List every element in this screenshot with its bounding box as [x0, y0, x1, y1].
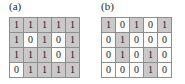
grid-cell: 1 [24, 63, 38, 78]
grid-cell: 1 [66, 33, 80, 48]
grid-cell: 0 [52, 48, 66, 63]
grid-cell: 1 [116, 48, 130, 63]
grid-cell: 1 [10, 18, 24, 33]
grid-cell: 0 [158, 33, 172, 48]
grid-cell: 0 [130, 63, 144, 78]
grid-cell: 0 [10, 63, 24, 78]
grid-cell: 1 [10, 48, 24, 63]
grid-cell: 1 [38, 33, 52, 48]
grid-cell: 0 [158, 63, 172, 78]
grid-cell: 1 [130, 18, 144, 33]
grid-cell: 1 [10, 33, 24, 48]
grid-cell: 0 [130, 48, 144, 63]
grid-cell: 1 [66, 48, 80, 63]
panel-b-label: (b) [101, 0, 114, 13]
grid-cell: 0 [102, 33, 116, 48]
grid-cell: 0 [116, 63, 130, 78]
grid-cell: 1 [144, 63, 158, 78]
grid-cell: 0 [52, 33, 66, 48]
table-row: 0 1 1 1 1 [10, 63, 80, 78]
grid-cell: 1 [102, 18, 116, 33]
grid-cell: 1 [24, 48, 38, 63]
table-row: 0 0 0 1 0 [102, 63, 172, 78]
panel-a: (a) 1 1 1 1 1 1 0 1 0 1 1 [0, 0, 92, 84]
grid-cell: 1 [38, 63, 52, 78]
grid-cell: 1 [66, 63, 80, 78]
grid-cell: 1 [24, 18, 38, 33]
grid-cell: 0 [158, 48, 172, 63]
table-row: 1 1 1 0 1 [10, 48, 80, 63]
binary-matrix-figure: (a) 1 1 1 1 1 1 0 1 0 1 1 [0, 0, 185, 84]
grid-cell: 1 [158, 18, 172, 33]
panel-a-label: (a) [9, 0, 21, 13]
grid-cell: 1 [38, 48, 52, 63]
grid-cell: 0 [144, 18, 158, 33]
table-row: 0 1 0 0 0 [102, 33, 172, 48]
grid-cell: 0 [144, 33, 158, 48]
panel-a-grid-body: 1 1 1 1 1 1 0 1 0 1 1 1 1 0 [10, 18, 80, 78]
table-row: 0 1 0 1 0 [102, 48, 172, 63]
panel-b-grid-body: 1 0 1 0 1 0 1 0 0 0 0 1 0 1 [102, 18, 172, 78]
grid-cell: 1 [66, 18, 80, 33]
grid-cell: 0 [116, 18, 130, 33]
grid-cell: 1 [52, 18, 66, 33]
grid-cell: 0 [102, 48, 116, 63]
grid-cell: 0 [130, 33, 144, 48]
grid-cell: 1 [144, 48, 158, 63]
table-row: 1 0 1 0 1 [10, 33, 80, 48]
grid-cell: 0 [102, 63, 116, 78]
panel-b: (b) 1 0 1 0 1 0 1 0 0 0 0 [92, 0, 184, 84]
grid-cell: 1 [52, 63, 66, 78]
panel-b-grid: 1 0 1 0 1 0 1 0 0 0 0 1 0 1 [101, 17, 172, 78]
table-row: 1 0 1 0 1 [102, 18, 172, 33]
grid-cell: 1 [116, 33, 130, 48]
grid-cell: 0 [24, 33, 38, 48]
grid-cell: 1 [38, 18, 52, 33]
table-row: 1 1 1 1 1 [10, 18, 80, 33]
panel-a-grid: 1 1 1 1 1 1 0 1 0 1 1 1 1 0 [9, 17, 80, 78]
